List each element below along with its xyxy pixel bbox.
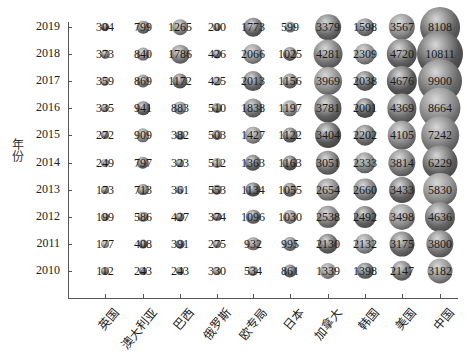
x-tick-label: 巴西 [169, 304, 198, 334]
data-value-label: 5830 [428, 182, 452, 197]
data-value-label: 2038 [353, 74, 377, 89]
data-value-label: 1172 [168, 74, 192, 89]
data-value-label: 9900 [428, 74, 452, 89]
data-value-label: 4281 [316, 47, 340, 62]
y-tick [68, 190, 72, 191]
data-value-label: 909 [134, 128, 152, 143]
x-tick [402, 294, 403, 298]
y-axis-line [68, 22, 69, 299]
y-tick [68, 271, 72, 272]
data-value-label: 2066 [241, 47, 265, 62]
data-value-label: 3800 [428, 236, 452, 251]
data-value-label: 3379 [316, 20, 340, 35]
data-value-label: 243 [171, 263, 189, 278]
data-value-label: 1598 [353, 20, 377, 35]
data-value-label: 275 [208, 236, 226, 251]
data-value-label: 1363 [241, 155, 265, 170]
data-value-label: 7242 [428, 128, 452, 143]
data-value-label: 3175 [390, 236, 414, 251]
data-value-label: 599 [281, 20, 299, 35]
x-tick-label: 俄罗斯 [198, 304, 235, 343]
data-value-label: 382 [171, 128, 189, 143]
x-tick-label: 欧专局 [234, 304, 271, 343]
data-value-label: 512 [208, 155, 226, 170]
data-value-label: 2538 [316, 209, 340, 224]
x-tick [143, 294, 144, 298]
data-value-label: 1030 [278, 209, 302, 224]
x-axis-line [68, 298, 458, 299]
data-value-label: 4636 [428, 209, 452, 224]
data-value-label: 995 [281, 236, 299, 251]
data-value-label: 6229 [428, 155, 452, 170]
data-value-label: 335 [96, 101, 114, 116]
data-value-label: 3404 [316, 128, 340, 143]
data-value-label: 1265 [168, 20, 192, 35]
data-value-label: 2333 [353, 155, 377, 170]
x-tick-label: 加拿大 [309, 304, 346, 343]
x-tick [290, 294, 291, 298]
data-value-label: 2309 [353, 47, 377, 62]
data-value-label: 3814 [390, 155, 414, 170]
data-value-label: 586 [134, 209, 152, 224]
y-tick-label: 2015 [20, 127, 60, 142]
y-tick [68, 108, 72, 109]
data-value-label: 112 [96, 263, 114, 278]
y-tick-label: 2019 [20, 19, 60, 34]
data-value-label: 1197 [278, 101, 302, 116]
x-tick-label: 中国 [429, 304, 458, 334]
data-value-label: 2492 [353, 209, 377, 224]
data-value-label: 8664 [428, 101, 452, 116]
data-value-label: 426 [208, 47, 226, 62]
data-value-label: 713 [134, 182, 152, 197]
data-value-label: 869 [134, 74, 152, 89]
data-value-label: 391 [171, 236, 189, 251]
data-value-label: 2202 [353, 128, 377, 143]
data-value-label: 330 [208, 263, 226, 278]
data-value-label: 1427 [241, 128, 265, 143]
data-value-label: 503 [208, 128, 226, 143]
y-tick [68, 27, 72, 28]
data-value-label: 932 [244, 236, 262, 251]
data-value-label: 1838 [241, 101, 265, 116]
y-tick-label: 2016 [20, 100, 60, 115]
data-value-label: 883 [171, 101, 189, 116]
x-tick-label: 韩国 [354, 304, 383, 334]
data-value-label: 1156 [278, 74, 302, 89]
data-value-label: 199 [96, 209, 114, 224]
x-tick [217, 294, 218, 298]
y-tick-label: 2012 [20, 209, 60, 224]
data-value-label: 2130 [316, 236, 340, 251]
x-tick [253, 294, 254, 298]
data-value-label: 4105 [390, 128, 414, 143]
data-value-label: 1122 [278, 128, 302, 143]
x-tick-label: 日本 [279, 304, 308, 334]
data-value-label: 323 [171, 155, 189, 170]
data-value-label: 1773 [241, 20, 265, 35]
data-value-label: 359 [96, 74, 114, 89]
data-value-label: 1096 [241, 209, 265, 224]
x-tick [180, 294, 181, 298]
y-tick-label: 2014 [20, 155, 60, 170]
data-value-label: 510 [208, 101, 226, 116]
y-tick-label: 2013 [20, 182, 60, 197]
data-value-label: 1055 [278, 182, 302, 197]
data-value-label: 3781 [316, 101, 340, 116]
data-value-label: 373 [96, 47, 114, 62]
y-tick-label: 2018 [20, 46, 60, 61]
data-value-label: 2132 [353, 236, 377, 251]
data-value-label: 1398 [353, 263, 377, 278]
x-tick [105, 294, 106, 298]
data-value-label: 2660 [353, 182, 377, 197]
data-value-label: 941 [134, 101, 152, 116]
data-value-label: 797 [134, 155, 152, 170]
y-tick-label: 2017 [20, 73, 60, 88]
data-value-label: 249 [96, 155, 114, 170]
data-value-label: 4676 [390, 74, 414, 89]
data-value-label: 1339 [316, 263, 340, 278]
data-value-label: 840 [134, 47, 152, 62]
data-value-label: 861 [281, 263, 299, 278]
x-tick [365, 294, 366, 298]
data-value-label: 3567 [390, 20, 414, 35]
data-value-label: 2013 [241, 74, 265, 89]
data-value-label: 374 [208, 209, 226, 224]
